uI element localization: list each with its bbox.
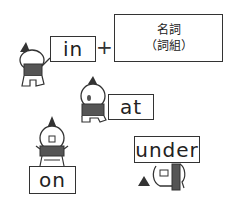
character-in-icon bbox=[14, 42, 54, 90]
character-under-icon bbox=[138, 162, 194, 192]
noun-phrase-label: （詞組） bbox=[145, 38, 193, 54]
noun-label: 名詞 bbox=[157, 22, 181, 38]
preposition-box-under: under bbox=[134, 136, 200, 163]
preposition-at: at bbox=[120, 95, 142, 119]
preposition-on: on bbox=[39, 168, 66, 192]
preposition-box-at: at bbox=[108, 94, 154, 120]
noun-box: 名詞 （詞組） bbox=[114, 14, 223, 62]
preposition-box-on: on bbox=[29, 166, 76, 194]
preposition-box-in: in bbox=[50, 36, 96, 62]
preposition-under: under bbox=[135, 138, 199, 162]
character-on-icon bbox=[34, 116, 70, 166]
plus-sign: + bbox=[96, 35, 113, 59]
preposition-in: in bbox=[63, 37, 83, 61]
character-at-icon bbox=[76, 76, 110, 126]
